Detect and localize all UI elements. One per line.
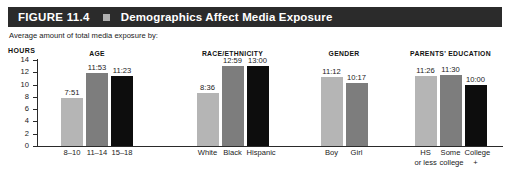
y-tick-mark (33, 146, 37, 147)
bar-slot: 13:00 (247, 60, 269, 146)
bar[interactable] (321, 77, 343, 146)
category-label: Somecollege (440, 148, 462, 167)
bar-value-label: 11:53 (88, 63, 106, 72)
bar[interactable] (465, 85, 487, 146)
bar[interactable] (61, 98, 83, 146)
bar-row: 11:1210:17 (300, 60, 388, 146)
category-label: HSor less (415, 148, 437, 167)
category-label: Boy (321, 148, 343, 158)
y-tick-label: 0 (11, 141, 29, 150)
bar-slot: 10:17 (346, 60, 368, 146)
bar-slot: 7:51 (61, 60, 83, 146)
category-label: White (197, 148, 219, 158)
category-label: 8–10 (61, 148, 83, 158)
category-label: 11–14 (86, 148, 108, 158)
y-tick-label: 6 (11, 104, 29, 113)
bar[interactable] (86, 73, 108, 146)
bar-slot: 11:30 (440, 60, 462, 146)
y-tick-mark (33, 60, 37, 61)
y-tick-mark (33, 109, 37, 110)
y-tick-mark (33, 85, 37, 86)
bar-slot: 10:00 (465, 60, 487, 146)
y-tick-label: 4 (11, 116, 29, 125)
bar-slot: 11:23 (111, 60, 133, 146)
bar[interactable] (415, 76, 437, 146)
bar-slot: 11:53 (86, 60, 108, 146)
bar-group-title: PARENTS' EDUCATION (398, 50, 503, 57)
bar-group: RACE/ETHNICITY8:3612:5913:00WhiteBlackHi… (165, 0, 300, 179)
bar-value-label: 11:26 (416, 66, 434, 75)
bar-value-label: 12:59 (223, 56, 242, 65)
bar-row: 11:2611:3010:00 (398, 60, 503, 146)
y-axis-line (37, 59, 38, 147)
bar-value-label: 8:36 (200, 83, 215, 92)
category-label: 15–18 (111, 148, 133, 158)
y-tick-label: 2 (11, 129, 29, 138)
bar[interactable] (111, 76, 133, 146)
bar-row: 8:3612:5913:00 (165, 60, 300, 146)
y-tick-label: 14 (11, 55, 29, 64)
y-tick-mark (33, 121, 37, 122)
bar-row: 7:5111:5311:23 (42, 60, 152, 146)
bar-value-label: 11:23 (113, 66, 131, 75)
bar-value-label: 11:30 (441, 65, 459, 74)
bar[interactable] (440, 75, 462, 146)
category-label: Black (222, 148, 244, 158)
bar-value-label: 11:12 (322, 67, 340, 76)
y-tick-mark (33, 97, 37, 98)
category-label: Hispanic (247, 148, 269, 158)
y-axis-title: HOURS (8, 47, 35, 54)
bar-slot: 12:59 (222, 60, 244, 146)
bar[interactable] (197, 93, 219, 146)
bar-value-label: 10:00 (466, 75, 485, 84)
category-labels: 8–1011–1415–18 (42, 148, 152, 158)
bar-slot: 11:12 (321, 60, 343, 146)
category-labels: BoyGirl (300, 148, 388, 158)
bar-group-title: AGE (42, 50, 152, 57)
bar[interactable] (346, 83, 368, 146)
category-label: College+ (465, 148, 487, 167)
bar-slot: 11:26 (415, 60, 437, 146)
bar[interactable] (247, 66, 269, 146)
category-labels: HSor lessSomecollegeCollege+ (398, 148, 503, 167)
category-labels: WhiteBlackHispanic (165, 148, 300, 158)
bar-value-label: 13:00 (248, 56, 267, 65)
bar-group: PARENTS' EDUCATION11:2611:3010:00HSor le… (398, 0, 503, 179)
category-label: Girl (346, 148, 368, 158)
figure-container: FIGURE 11.4 Demographics Affect Media Ex… (0, 0, 510, 179)
bar-value-label: 7:51 (65, 88, 80, 97)
bar-slot: 8:36 (197, 60, 219, 146)
bar-group: AGE7:5111:5311:238–1011–1415–18 (42, 0, 152, 179)
y-tick-mark (33, 72, 37, 73)
y-tick-mark (33, 134, 37, 135)
y-tick-label: 10 (11, 80, 29, 89)
bar-value-label: 10:17 (347, 73, 366, 82)
y-tick-label: 8 (11, 92, 29, 101)
bar[interactable] (222, 66, 244, 146)
y-tick-label: 12 (11, 67, 29, 76)
bar-group-title: GENDER (300, 50, 388, 57)
bar-group: GENDER11:1210:17BoyGirl (300, 0, 388, 179)
